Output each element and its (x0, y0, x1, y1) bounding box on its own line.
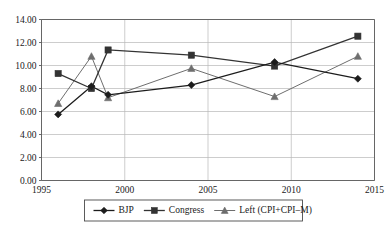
gridlines (42, 20, 375, 181)
data-point-marker-triangle (354, 53, 361, 60)
y-tick-label: 12.00 (15, 38, 37, 48)
data-point-marker-diamond (354, 75, 361, 82)
y-tick-label: 10.00 (15, 61, 37, 71)
data-point-marker-square (151, 208, 157, 214)
legend-item-label: Left (CPI+CPI–M) (239, 205, 312, 216)
data-point-marker-square (55, 70, 61, 76)
y-tick-label: 4.00 (20, 130, 37, 140)
legend: BJPCongressLeft (CPI+CPI–M) (85, 200, 312, 221)
data-point-marker-square (188, 52, 194, 58)
data-point-marker-triangle (271, 93, 278, 100)
x-tick-label: 1995 (32, 185, 51, 195)
x-tick-label: 2005 (199, 185, 218, 195)
x-tick-label: 2015 (365, 185, 384, 195)
data-point-marker-square (355, 33, 361, 39)
data-point-marker-diamond (188, 82, 195, 89)
x-tick-label: 2010 (282, 185, 301, 195)
y-tick-label: 8.00 (20, 84, 37, 94)
legend-item-label: BJP (119, 205, 134, 215)
data-point-marker-triangle (55, 100, 62, 107)
data-point-marker-square (105, 47, 111, 53)
y-tick-label: 6.00 (20, 107, 37, 117)
x-tick-label: 2000 (115, 185, 134, 195)
x-axis-tick-labels: 19952000200520102015 (32, 185, 384, 195)
legend-item-label: Congress (169, 205, 205, 215)
data-point-marker-triangle (88, 53, 95, 60)
chart-canvas: 0.002.004.006.008.0010.0012.0014.00 1995… (0, 0, 387, 235)
y-tick-label: 2.00 (20, 153, 37, 163)
y-tick-label: 14.00 (15, 15, 37, 25)
y-axis-tick-labels: 0.002.004.006.008.0010.0012.0014.00 (15, 15, 41, 186)
line-chart: 0.002.004.006.008.0010.0012.0014.00 1995… (0, 0, 387, 235)
